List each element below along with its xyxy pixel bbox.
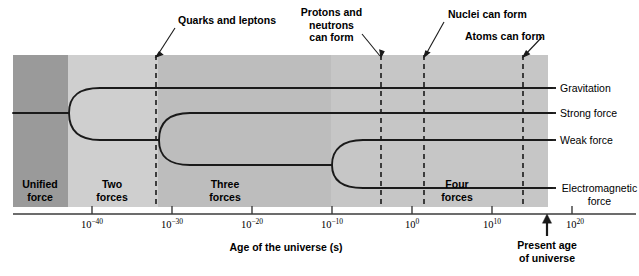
annotation-atoms-line1: Atoms can form (465, 30, 545, 42)
era-two-line1: Two (102, 178, 122, 190)
x-tick-label-1e-20: 10−20 (241, 219, 263, 230)
force-label-electromagnetic-force: Electromagnetic force (560, 182, 639, 207)
x-tick-exponent-2: −20 (251, 217, 263, 226)
force-label-strong-text: Strong force (560, 107, 617, 119)
band-three-forces (158, 55, 331, 207)
x-axis-ticks (92, 206, 572, 214)
era-four-line1: Four (445, 178, 468, 190)
era-label-unified-force: Unified force (22, 178, 58, 203)
force-label-weak-text: Weak force (560, 134, 613, 146)
x-tick-label-1e10: 1010 (483, 219, 501, 230)
x-tick-label-1e-30: 10−30 (161, 219, 183, 230)
present-age-label: Present age of universe (517, 239, 577, 264)
x-tick-mantissa-6: 10 (566, 219, 577, 230)
x-tick-label-1e20: 1020 (566, 219, 584, 230)
x-tick-mantissa-0: 10 (81, 219, 92, 230)
force-unification-diagram: Quarks and leptons Protons and neutrons … (0, 0, 639, 276)
x-tick-mantissa-1: 10 (161, 219, 172, 230)
era-four-line2: forces (441, 191, 473, 203)
era-label-two-forces: Two forces (96, 178, 128, 203)
x-tick-exponent-6: 20 (577, 217, 585, 226)
x-tick-label-1e-40: 10−40 (81, 219, 103, 230)
present-age-line2: of universe (519, 252, 575, 264)
force-label-em-line2: force (588, 195, 611, 207)
force-label-em-line1: Electromagnetic (562, 182, 637, 194)
annotation-quarks-and-leptons: Quarks and leptons (178, 14, 276, 27)
era-two-line2: forces (96, 191, 128, 203)
era-label-four-forces: Four forces (441, 178, 473, 203)
x-tick-label-1e-10: 10−10 (321, 219, 343, 230)
annotation-protons-line2: neutrons (309, 19, 354, 31)
present-age-arrow-head (542, 214, 551, 223)
band-four-forces (331, 55, 548, 207)
era-three-line2: forces (209, 191, 241, 203)
x-tick-exponent-4: 0 (415, 217, 419, 226)
era-unified-line2: force (27, 191, 53, 203)
annotation-protons-line3: can form (309, 31, 353, 43)
annotation-nuclei-line1: Nuclei can form (448, 8, 527, 20)
force-label-gravitation: Gravitation (560, 82, 611, 95)
leader-nuclei (425, 22, 444, 56)
x-tick-exponent-5: 10 (494, 217, 502, 226)
leader-protons (362, 34, 380, 56)
x-tick-mantissa-4: 10 (405, 219, 416, 230)
force-label-connectors (548, 88, 556, 188)
present-age-arrow (542, 214, 551, 236)
annotation-protons-line1: Protons and (301, 6, 362, 18)
x-axis-title: Age of the universe (s) (229, 241, 342, 253)
x-tick-mantissa-5: 10 (483, 219, 494, 230)
x-tick-mantissa-3: 10 (321, 219, 332, 230)
present-age-line1: Present age (517, 239, 577, 251)
annotation-protons-and-neutrons: Protons and neutrons can form (300, 6, 363, 44)
force-label-gravitation-text: Gravitation (560, 82, 611, 94)
x-tick-exponent-3: −10 (331, 217, 343, 226)
era-unified-line1: Unified (22, 178, 58, 190)
annotation-quarks-line1: Quarks and leptons (178, 14, 276, 26)
force-label-weak-force: Weak force (560, 134, 613, 147)
annotation-nuclei-can-form: Nuclei can form (448, 8, 527, 21)
x-tick-exponent-0: −40 (91, 217, 103, 226)
era-label-three-forces: Three forces (209, 178, 241, 203)
force-label-strong-force: Strong force (560, 107, 617, 120)
x-axis-title-text: Age of the universe (s) (229, 241, 342, 253)
era-three-line1: Three (211, 178, 240, 190)
x-tick-exponent-1: −30 (171, 217, 183, 226)
x-tick-label-1e0: 100 (405, 219, 419, 230)
annotation-atoms-can-form: Atoms can form (465, 30, 545, 43)
x-tick-mantissa-2: 10 (241, 219, 252, 230)
